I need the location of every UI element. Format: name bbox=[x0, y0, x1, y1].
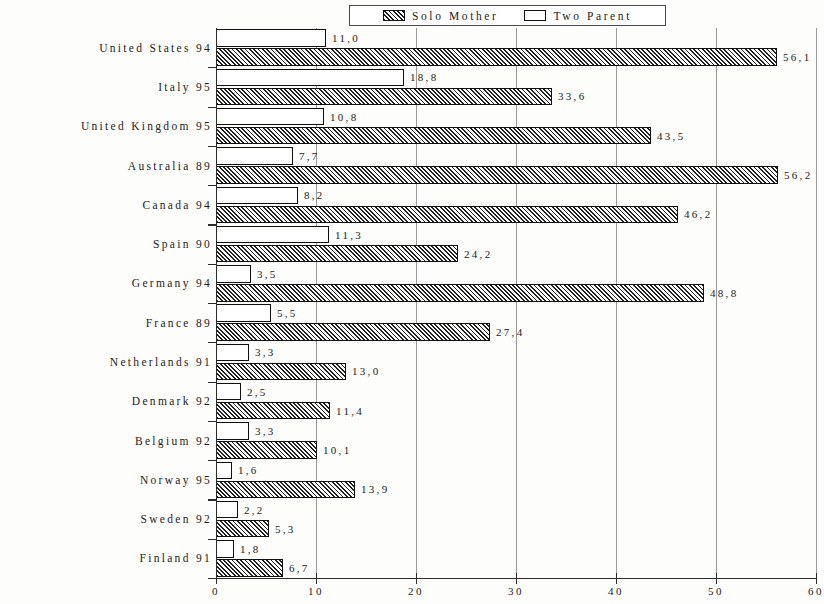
bar-value-label-solo-mother: 11,4 bbox=[336, 405, 364, 417]
bar-two-parent bbox=[216, 29, 326, 47]
bar-value-label-two-parent: 5,5 bbox=[277, 307, 298, 319]
legend-label-two-parent: Two Parent bbox=[553, 10, 632, 22]
bar-two-parent bbox=[216, 540, 234, 558]
bar-value-label-solo-mother: 33,6 bbox=[558, 90, 586, 102]
y-axis-category-label: Belgium 92 bbox=[135, 435, 212, 447]
bar-value-label-two-parent: 1,8 bbox=[240, 543, 261, 555]
x-axis-tick-label: 10 bbox=[308, 585, 324, 597]
bar-two-parent bbox=[216, 147, 293, 165]
legend-swatch-hatched-icon bbox=[383, 10, 405, 21]
bar-solo-mother bbox=[216, 402, 330, 420]
bar-solo-mother bbox=[216, 284, 704, 302]
y-axis-category-label: France 89 bbox=[146, 317, 212, 329]
gridline bbox=[816, 28, 817, 578]
bar-two-parent bbox=[216, 226, 329, 244]
bar-value-label-two-parent: 10,8 bbox=[330, 111, 358, 123]
y-axis-line bbox=[216, 28, 217, 579]
bar-two-parent bbox=[216, 265, 251, 283]
bar-two-parent bbox=[216, 462, 232, 480]
chart-legend: Solo Mother Two Parent bbox=[349, 5, 666, 26]
x-axis-tick-label: 40 bbox=[608, 585, 624, 597]
bar-two-parent bbox=[216, 422, 249, 440]
bar-value-label-solo-mother: 24,2 bbox=[464, 248, 492, 260]
x-axis-tick-label: 60 bbox=[808, 585, 824, 597]
bar-value-label-solo-mother: 46,2 bbox=[684, 208, 712, 220]
x-axis-tick-label: 50 bbox=[708, 585, 724, 597]
bar-value-label-solo-mother: 6,7 bbox=[289, 562, 310, 574]
y-axis-category-label: Germany 94 bbox=[132, 277, 212, 289]
bar-value-label-solo-mother: 48,8 bbox=[710, 287, 738, 299]
gridline bbox=[516, 28, 517, 578]
legend-label-solo-mother: Solo Mother bbox=[412, 10, 498, 22]
bar-solo-mother bbox=[216, 323, 490, 341]
bar-two-parent bbox=[216, 383, 241, 401]
bar-value-label-two-parent: 11,3 bbox=[335, 229, 363, 241]
bar-value-label-two-parent: 3,3 bbox=[255, 425, 276, 437]
bar-value-label-two-parent: 2,5 bbox=[247, 386, 268, 398]
y-axis-category-label: Spain 90 bbox=[153, 238, 212, 250]
bar-two-parent bbox=[216, 108, 324, 126]
y-axis-category-label: Australia 89 bbox=[128, 160, 212, 172]
x-axis-tick-label: 30 bbox=[508, 585, 524, 597]
gridline bbox=[416, 28, 417, 578]
bar-value-label-two-parent: 11,0 bbox=[332, 32, 360, 44]
bar-solo-mother bbox=[216, 559, 283, 577]
bar-solo-mother bbox=[216, 363, 346, 381]
x-axis-tick-label: 20 bbox=[408, 585, 424, 597]
bar-solo-mother bbox=[216, 88, 552, 106]
x-axis-line bbox=[216, 578, 817, 579]
bar-two-parent bbox=[216, 501, 238, 519]
y-axis-category-label: United Kingdom 95 bbox=[81, 120, 212, 132]
bar-solo-mother bbox=[216, 481, 355, 499]
bar-solo-mother bbox=[216, 520, 269, 538]
bar-two-parent bbox=[216, 187, 298, 205]
bar-value-label-solo-mother: 56,2 bbox=[784, 169, 812, 181]
bar-two-parent bbox=[216, 304, 271, 322]
bar-value-label-solo-mother: 5,3 bbox=[275, 523, 296, 535]
y-axis-category-label: Denmark 92 bbox=[132, 395, 212, 407]
bar-solo-mother bbox=[216, 441, 317, 459]
bar-value-label-solo-mother: 43,5 bbox=[657, 130, 685, 142]
bar-solo-mother bbox=[216, 127, 651, 145]
y-axis-category-label: Netherlands 91 bbox=[110, 356, 212, 368]
legend-swatch-open-icon bbox=[524, 10, 546, 21]
bar-value-label-solo-mother: 13,0 bbox=[352, 365, 380, 377]
legend-entry-two-parent: Two Parent bbox=[524, 10, 632, 22]
y-axis-category-label: United States 94 bbox=[99, 42, 212, 54]
y-axis-category-label: Sweden 92 bbox=[141, 513, 212, 525]
legend-entry-solo-mother: Solo Mother bbox=[383, 10, 498, 22]
bar-solo-mother bbox=[216, 166, 778, 184]
bar-value-label-two-parent: 8,2 bbox=[304, 189, 325, 201]
bar-value-label-two-parent: 3,3 bbox=[255, 346, 276, 358]
bar-value-label-solo-mother: 10,1 bbox=[323, 444, 351, 456]
y-axis-category-label: Norway 95 bbox=[140, 474, 212, 486]
bar-value-label-two-parent: 1,6 bbox=[238, 464, 259, 476]
gridline bbox=[616, 28, 617, 578]
bar-value-label-two-parent: 18,8 bbox=[410, 71, 438, 83]
bar-value-label-two-parent: 7,7 bbox=[299, 150, 320, 162]
bar-solo-mother bbox=[216, 48, 777, 66]
bar-two-parent bbox=[216, 344, 249, 362]
bar-value-label-two-parent: 2,2 bbox=[244, 504, 265, 516]
bar-solo-mother bbox=[216, 245, 458, 263]
gridline bbox=[716, 28, 717, 578]
bar-two-parent bbox=[216, 69, 404, 87]
bar-value-label-solo-mother: 13,9 bbox=[361, 483, 389, 495]
bar-value-label-solo-mother: 27,4 bbox=[496, 326, 524, 338]
y-axis-category-label: Italy 95 bbox=[158, 81, 212, 93]
bar-solo-mother bbox=[216, 206, 678, 224]
y-axis-category-label: Canada 94 bbox=[142, 199, 212, 211]
x-axis-tick-label: 0 bbox=[212, 585, 220, 597]
y-axis-category-label: Finland 91 bbox=[139, 552, 212, 564]
bar-value-label-two-parent: 3,5 bbox=[257, 268, 278, 280]
bar-value-label-solo-mother: 56,1 bbox=[783, 51, 811, 63]
